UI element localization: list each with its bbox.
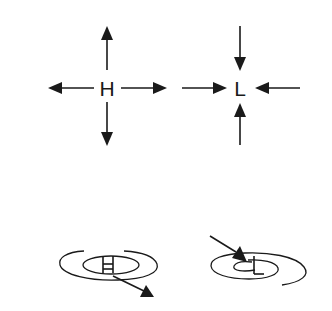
low-convergence-panel: L [182, 26, 300, 145]
arrow-left-icon [48, 82, 94, 94]
low-label: L [234, 77, 246, 100]
arrow-inward-icon [210, 236, 247, 262]
arrow-left-icon [255, 82, 300, 94]
high-label: H [99, 77, 114, 100]
high-divergence-panel: H [48, 26, 167, 146]
spiral-icon [60, 251, 158, 280]
arrow-right-icon [121, 82, 167, 94]
arrow-down-icon [101, 102, 113, 146]
pressure-systems-diagram: H L [0, 0, 332, 311]
low-label-icon [254, 256, 264, 274]
low-spiral-panel [210, 236, 306, 285]
spiral-icon [211, 253, 306, 285]
high-spiral-panel [60, 251, 158, 297]
arrow-up-icon [101, 26, 113, 70]
arrow-down-icon [234, 26, 246, 71]
high-label-icon [103, 256, 113, 273]
arrow-right-icon [182, 82, 227, 94]
arrow-up-icon [234, 103, 246, 145]
